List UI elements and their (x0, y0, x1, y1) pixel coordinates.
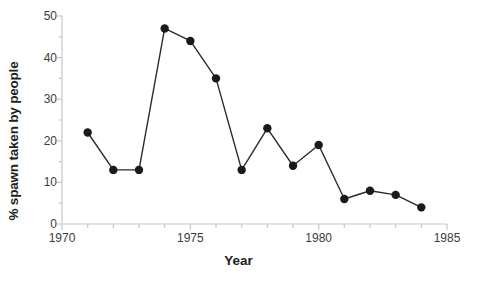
data-point-marker (160, 24, 168, 32)
data-point-marker (289, 162, 297, 170)
x-axis-tick-label: 1980 (289, 232, 349, 244)
data-point-marker (391, 191, 399, 199)
data-point-marker (186, 37, 194, 45)
axis-lines (62, 16, 447, 224)
data-point-marker (212, 74, 220, 82)
data-point-marker (366, 187, 374, 195)
x-axis-tick-label: 1975 (160, 232, 220, 244)
data-point-marker (314, 141, 322, 149)
x-axis-tick-label: 1985 (417, 232, 477, 244)
data-point-marker (109, 166, 117, 174)
x-axis-minor-ticks (88, 224, 422, 228)
x-axis-title: Year (0, 253, 477, 268)
data-point-marker (237, 166, 245, 174)
x-axis-tick-label: 1970 (32, 232, 92, 244)
data-markers (83, 24, 425, 211)
data-point-marker (340, 195, 348, 203)
data-line-series (88, 28, 422, 207)
data-point-marker (417, 203, 425, 211)
x-axis-major-ticks (62, 224, 447, 230)
data-point-marker (263, 124, 271, 132)
chart-figure: % spawn taken by people 01020304050 1970… (0, 0, 477, 282)
data-point-marker (83, 128, 91, 136)
data-point-marker (135, 166, 143, 174)
